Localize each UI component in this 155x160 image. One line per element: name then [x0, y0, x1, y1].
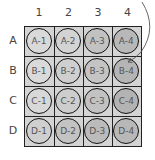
curved-arrow-icon — [0, 0, 155, 160]
